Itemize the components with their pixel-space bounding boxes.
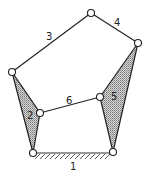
joint-right-inner bbox=[97, 94, 104, 101]
label-link-6: 6 bbox=[66, 95, 72, 106]
link-5-ternary bbox=[100, 43, 138, 152]
joint-ground-left bbox=[30, 150, 37, 157]
joint-top bbox=[88, 10, 95, 17]
label-link-1: 1 bbox=[70, 161, 76, 172]
label-link-4: 4 bbox=[114, 17, 120, 28]
link-2-ternary bbox=[12, 72, 40, 153]
label-link-3: 3 bbox=[46, 31, 52, 42]
joint-right-top bbox=[135, 40, 142, 47]
linkage-diagram: 3 4 6 2 5 1 bbox=[0, 0, 149, 176]
label-link-5: 5 bbox=[111, 91, 117, 102]
ground-hatch bbox=[33, 153, 113, 159]
joint-ground-right bbox=[110, 149, 117, 156]
link-3 bbox=[12, 13, 91, 72]
joint-left-inner bbox=[37, 110, 44, 117]
label-link-2: 2 bbox=[27, 110, 33, 121]
joint-left bbox=[9, 69, 16, 76]
